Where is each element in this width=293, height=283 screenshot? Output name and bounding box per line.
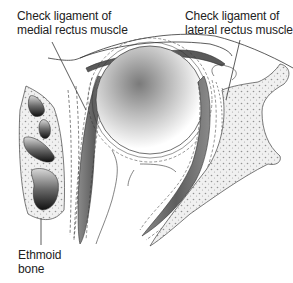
label-lateral-check-ligament: Check ligament of lateral rectus muscle bbox=[185, 9, 293, 37]
ethmoid-bone bbox=[19, 86, 64, 245]
label-ethmoid-bone: Ethmoid bone bbox=[18, 248, 61, 276]
label-medial-check-ligament: Check ligament of medial rectus muscle bbox=[17, 9, 128, 37]
medial-fascia bbox=[68, 86, 79, 238]
medial-leader-line bbox=[52, 42, 86, 110]
orbit-diagram bbox=[0, 0, 293, 283]
